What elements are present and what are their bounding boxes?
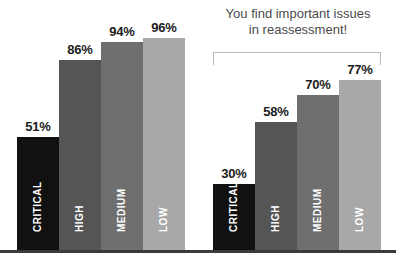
bar-category-label: MEDIUM xyxy=(117,188,127,232)
bar-value-label: 51% xyxy=(25,120,50,133)
bar-critical: CRITICAL xyxy=(213,184,255,250)
chart-panel-initial-assessment: CRITICAL51%HIGH86%MEDIUM94%LOW96% xyxy=(17,0,185,250)
bar-value-label: 30% xyxy=(221,167,246,180)
bar-value-label: 86% xyxy=(67,43,92,56)
bar-category-label: CRITICAL xyxy=(33,181,43,232)
bar-low: LOW xyxy=(143,38,185,250)
bar-medium: MEDIUM xyxy=(101,42,143,250)
bar-category-label: HIGH xyxy=(271,205,281,232)
bar-value-label: 58% xyxy=(263,105,288,118)
axis-baseline xyxy=(0,250,396,253)
bar-value-label: 96% xyxy=(151,21,176,34)
bar-value-label: 94% xyxy=(109,25,134,38)
bar-high: HIGH xyxy=(59,60,101,250)
chart-canvas: You find important issues in reassessmen… xyxy=(0,0,396,265)
bar-value-label: 77% xyxy=(347,63,372,76)
bar-category-label: LOW xyxy=(355,207,365,232)
bar-value-label: 70% xyxy=(305,78,330,91)
bar-medium: MEDIUM xyxy=(297,95,339,250)
bar-category-label: CRITICAL xyxy=(229,181,239,232)
bar-category-label: LOW xyxy=(159,207,169,232)
bar-low: LOW xyxy=(339,80,381,250)
bar-category-label: MEDIUM xyxy=(313,188,323,232)
chart-panel-reassessment: CRITICAL30%HIGH58%MEDIUM70%LOW77% xyxy=(213,0,381,250)
bar-critical: CRITICAL xyxy=(17,137,59,250)
bar-category-label: HIGH xyxy=(75,205,85,232)
bar-high: HIGH xyxy=(255,122,297,250)
